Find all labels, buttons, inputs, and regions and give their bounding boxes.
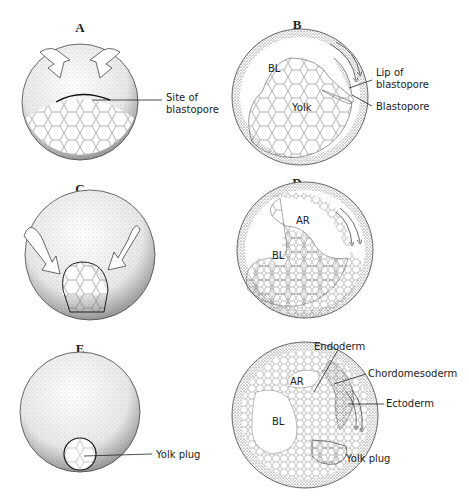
label-yolk: Yolk — [291, 102, 312, 113]
label-endoderm: Endoderm — [314, 341, 365, 352]
gastrulation-figure: A Site ofblastopore B BL Yolk Lip ofblas… — [0, 0, 469, 497]
panel-label-a: A — [75, 20, 85, 35]
panel-f: F AR BL Endoderm Chordomesoderm Ectoderm… — [232, 341, 457, 488]
label-bl: BL — [272, 416, 285, 427]
yolk-cells — [63, 262, 108, 312]
label-ar: AR — [290, 376, 304, 387]
panel-a: A Site ofblastopore — [22, 20, 219, 160]
panel-e: E Yolk plug — [20, 341, 200, 472]
diagram-canvas: A Site ofblastopore B BL Yolk Lip ofblas… — [0, 0, 469, 497]
label-bl: BL — [268, 63, 281, 74]
label-yolk-plug: Yolk plug — [345, 453, 390, 464]
label-blastopore: Blastopore — [376, 101, 430, 112]
label-ar: AR — [296, 215, 310, 226]
label-site: Site ofblastopore — [166, 92, 219, 115]
panel-c: C — [24, 181, 155, 320]
panel-d: D AR BL — [237, 175, 373, 319]
label-chordomesoderm: Chordomesoderm — [368, 368, 457, 379]
label-yolk-plug: Yolk plug — [155, 449, 200, 460]
label-lip: Lip ofblastopore — [376, 67, 429, 90]
label-ectoderm: Ectoderm — [386, 398, 434, 409]
panel-b: B BL Yolk Lip ofblastopore Blastopore — [232, 17, 430, 165]
label-bl: BL — [272, 250, 285, 261]
